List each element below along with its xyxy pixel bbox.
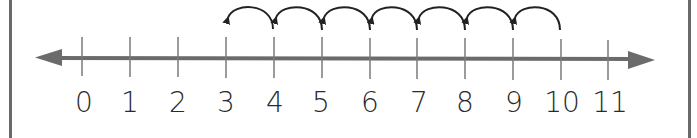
tick-label-7: 7 <box>410 86 428 120</box>
tick-label-8: 8 <box>456 86 474 120</box>
right-arrowhead-icon <box>628 51 655 69</box>
tick-label-6: 6 <box>361 86 379 120</box>
axis-line <box>50 58 640 59</box>
tick-label-10: 10 <box>544 86 580 120</box>
left-arrowhead-icon <box>35 49 62 66</box>
hop-arc-7-to-6 <box>372 7 417 30</box>
hop-arc-4-to-3 <box>228 7 273 29</box>
hop-arc-9-to-8 <box>467 7 513 30</box>
tick-label-1: 1 <box>121 86 139 120</box>
hop-arcs <box>228 7 560 30</box>
hop-arc-10-to-9 <box>515 7 560 30</box>
hop-arc-5-to-4 <box>276 7 322 30</box>
number-line-diagram: 0 1 2 3 4 5 6 7 8 9 10 11 <box>0 0 697 138</box>
tick-label-0: 0 <box>75 86 93 120</box>
tick-label-4: 4 <box>266 86 284 120</box>
tick-label-2: 2 <box>169 86 187 120</box>
tick-label-3: 3 <box>217 86 235 120</box>
hop-arc-8-to-7 <box>419 7 465 30</box>
tick-label-11: 11 <box>592 86 628 120</box>
tick-label-9: 9 <box>505 86 523 120</box>
hop-arc-6-to-5 <box>324 7 370 30</box>
tick-label-5: 5 <box>312 86 330 120</box>
